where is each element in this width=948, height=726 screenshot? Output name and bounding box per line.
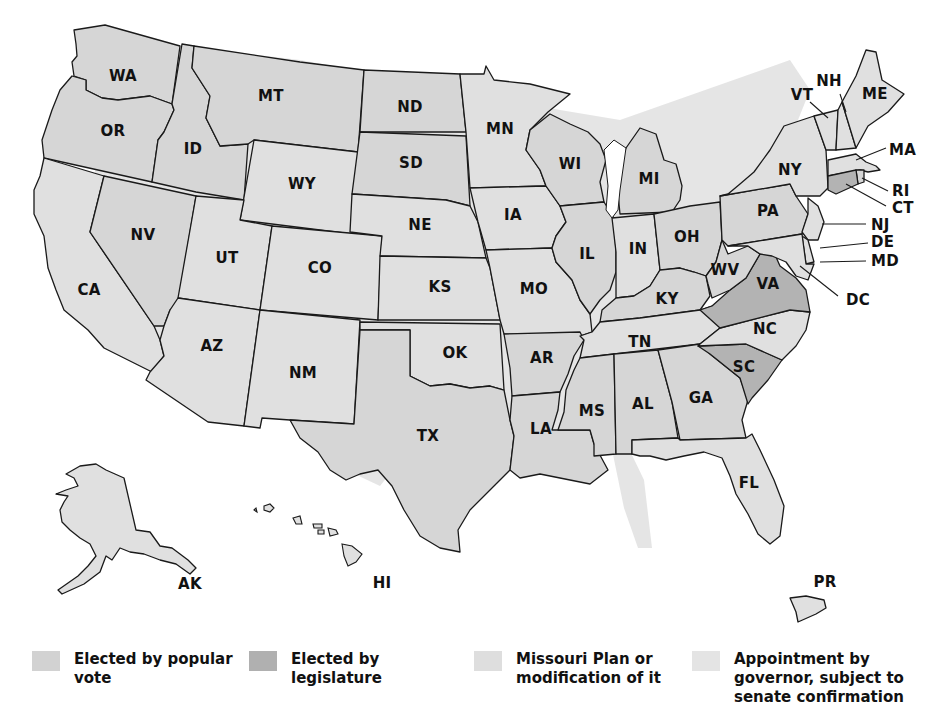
legend: Elected by popular vote Elected by legis… <box>0 650 948 726</box>
label-GA: GA <box>689 389 714 407</box>
legend-swatch-appointment <box>692 651 720 671</box>
label-ND: ND <box>397 98 423 116</box>
label-NV: NV <box>131 226 156 244</box>
label-DC: DC <box>846 291 870 309</box>
label-AR: AR <box>530 349 554 367</box>
label-HI: HI <box>373 574 392 592</box>
label-AK: AK <box>178 575 203 593</box>
state-AK[interactable] <box>56 464 196 594</box>
label-SC: SC <box>733 358 755 376</box>
label-MI: MI <box>638 170 659 188</box>
legend-swatch-legislature <box>249 651 277 671</box>
label-PR: PR <box>813 573 836 591</box>
label-NY: NY <box>778 161 803 179</box>
label-ID: ID <box>184 140 203 158</box>
legend-item-popular-vote: Elected by popular vote <box>32 650 233 688</box>
label-MT: MT <box>258 87 284 105</box>
label-MS: MS <box>579 402 605 420</box>
label-AZ: AZ <box>200 337 223 355</box>
label-OH: OH <box>674 228 700 246</box>
label-TN: TN <box>628 333 651 351</box>
label-IL: IL <box>579 245 595 263</box>
label-WY: WY <box>288 175 317 193</box>
label-WV: WV <box>711 261 740 279</box>
label-VT: VT <box>791 86 814 104</box>
label-NH: NH <box>816 72 842 90</box>
state-PR[interactable] <box>790 596 826 622</box>
label-CO: CO <box>308 259 332 277</box>
state-HI[interactable] <box>254 504 362 566</box>
legend-label-appointment: Appointment by governor, subject to sena… <box>734 650 904 707</box>
label-MO: MO <box>520 280 548 298</box>
legend-item-appointment: Appointment by governor, subject to sena… <box>692 650 904 707</box>
label-NC: NC <box>753 320 777 338</box>
legend-item-missouri-plan: Missouri Plan or modification of it <box>474 650 661 688</box>
label-IN: IN <box>629 240 648 258</box>
label-MA: MA <box>889 141 916 159</box>
legend-swatch-popular-vote <box>32 651 60 671</box>
legend-item-legislature: Elected by legislature <box>249 650 382 688</box>
label-IA: IA <box>504 206 522 224</box>
label-KY: KY <box>655 290 679 308</box>
label-OR: OR <box>101 122 126 140</box>
label-CA: CA <box>77 281 100 299</box>
label-MD: MD <box>871 252 899 270</box>
label-FL: FL <box>739 474 760 492</box>
label-DE: DE <box>871 233 894 251</box>
label-NJ: NJ <box>871 216 890 234</box>
label-VA: VA <box>757 275 780 293</box>
legend-label-legislature: Elected by legislature <box>291 650 382 688</box>
label-AL: AL <box>632 395 654 413</box>
label-ME: ME <box>862 85 888 103</box>
label-NE: NE <box>408 216 431 234</box>
state-FL[interactable] <box>632 434 784 544</box>
label-SD: SD <box>399 154 423 172</box>
label-PA: PA <box>757 202 779 220</box>
legend-swatch-missouri-plan <box>474 651 502 671</box>
label-OK: OK <box>443 344 469 362</box>
legend-label-popular-vote: Elected by popular vote <box>74 650 233 688</box>
label-LA: LA <box>530 420 552 438</box>
label-KS: KS <box>428 278 451 296</box>
label-WA: WA <box>109 67 137 85</box>
label-TX: TX <box>417 427 440 445</box>
us-map: WA OR CA NV ID MT WY UT CO AZ NM ND SD N… <box>0 0 948 640</box>
label-WI: WI <box>559 155 582 173</box>
label-UT: UT <box>215 249 238 267</box>
legend-label-missouri-plan: Missouri Plan or modification of it <box>516 650 661 688</box>
label-RI: RI <box>892 182 910 200</box>
label-MN: MN <box>486 120 514 138</box>
label-CT: CT <box>892 199 914 217</box>
label-NM: NM <box>289 364 317 382</box>
